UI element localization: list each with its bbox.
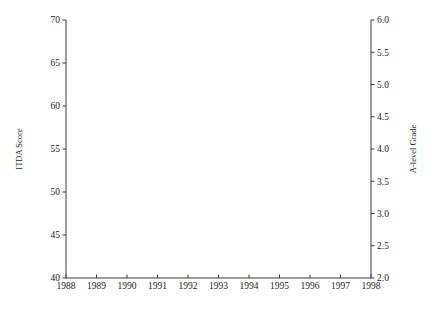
x-axis-tick-label: 1988 <box>57 281 76 291</box>
left-axis-tick-label: 65 <box>51 58 61 68</box>
right-axis-tick-label: 4.0 <box>377 144 389 154</box>
left-axis-tick-label: 55 <box>51 144 61 154</box>
dual-axis-line-chart: 40455055606570ITDA Score 2.02.53.03.54.0… <box>0 0 436 332</box>
x-axis-tick-label: 1997 <box>331 281 350 291</box>
right-axis-title: A-level Grade <box>408 125 418 174</box>
x-axis-tick-label: 1994 <box>240 281 259 291</box>
x-axis-tick-label: 1991 <box>148 281 167 291</box>
right-axis-tick-label: 2.5 <box>377 241 389 251</box>
x-axis-tick-label: 1989 <box>87 281 106 291</box>
right-axis-tick-label: 5.0 <box>377 80 389 90</box>
right-axis-tick-label: 4.5 <box>377 112 389 122</box>
left-axis-tick-label: 50 <box>51 187 61 197</box>
x-axis-tick-label: 1996 <box>301 281 320 291</box>
left-axis-tick-label: 45 <box>51 230 61 240</box>
left-axis-tick-label: 60 <box>51 101 61 111</box>
right-axis-tick-label: 3.5 <box>377 177 389 187</box>
right-axis-tick-label: 3.0 <box>377 209 389 219</box>
x-axis-tick-label: 1993 <box>209 281 228 291</box>
x-axis-tick-label: 1998 <box>362 281 381 291</box>
x-axis-tick-label: 1995 <box>270 281 289 291</box>
chart-container: 40455055606570ITDA Score 2.02.53.03.54.0… <box>0 0 436 332</box>
right-axis-tick-label: 6.0 <box>377 15 389 25</box>
x-axis-tick-label: 1990 <box>118 281 137 291</box>
x-axis-tick-label: 1992 <box>179 281 198 291</box>
left-axis-tick-label: 70 <box>51 15 61 25</box>
left-axis-title: ITDA Score <box>14 128 24 170</box>
right-axis-tick-label: 5.5 <box>377 48 389 58</box>
